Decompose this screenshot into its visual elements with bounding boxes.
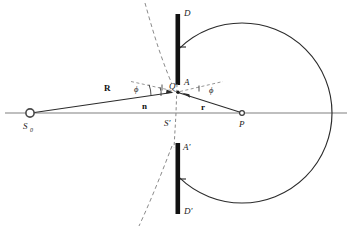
label-vector-R: R — [104, 83, 111, 93]
label-axis-point: S' — [164, 118, 172, 128]
label-vector-r: r — [201, 102, 205, 112]
P-point-marker — [240, 111, 245, 116]
vector-r-arrowhead — [182, 93, 190, 98]
incident-wavefront-upper — [145, 3, 172, 84]
label-vector-n: n — [142, 101, 147, 111]
diffraction-diagram: S 0 D D' A A' Q S' P R n r ϕ ϕ — [0, 0, 352, 229]
label-source-subscript: 0 — [30, 127, 33, 133]
incident-wavefront-lower — [139, 146, 172, 226]
label-barrier-top: D — [183, 8, 191, 18]
barrier-top-bar — [176, 14, 181, 85]
source-point-marker — [26, 109, 34, 117]
label-aperture-top: A — [183, 77, 190, 87]
aperture-plane-dashed-line — [174, 84, 177, 148]
ray-source-to-Q — [31, 93, 172, 114]
barrier-bottom-bar — [176, 143, 181, 214]
label-observation-point: P — [238, 119, 245, 129]
Q-point-marker — [176, 91, 179, 94]
label-angle-left: ϕ — [134, 84, 139, 94]
label-angle-right: ϕ — [209, 85, 214, 95]
label-source: S — [23, 121, 28, 131]
angle-arc-left — [149, 85, 151, 96]
label-aperture-bottom: A' — [182, 142, 191, 152]
label-aperture-point: Q — [169, 81, 176, 91]
label-barrier-bottom: D' — [183, 206, 193, 216]
